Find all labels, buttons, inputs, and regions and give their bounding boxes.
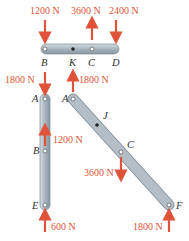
point-label-c-top: C (88, 58, 95, 69)
free-body-diagram (0, 0, 189, 241)
force-label-b-mid: 1200 N (53, 135, 83, 145)
point-label-b-left: B (33, 146, 39, 157)
force-label-e: 600 N (51, 222, 76, 232)
force-label-c-top: 3600 N (71, 6, 101, 16)
point-label-e: E (32, 201, 38, 212)
point-label-j: J (103, 111, 108, 122)
force-label-d-top: 2400 N (109, 6, 139, 16)
point-label-a-left: A (32, 94, 38, 105)
member-ajcf (71, 97, 171, 207)
member-abe (40, 94, 50, 210)
point-label-b-top: B (41, 58, 47, 69)
force-label-c-slant: 3600 N (84, 168, 114, 178)
force-label-a-slant: 1800 N (79, 75, 109, 85)
point-label-d: D (112, 58, 120, 69)
force-label-b-top: 1200 N (30, 6, 60, 16)
point-label-c-slant: C (127, 140, 134, 151)
member-bkcd (41, 44, 119, 54)
point-label-f: F (176, 201, 182, 212)
force-label-a-left: 1800 N (5, 75, 35, 85)
force-label-f: 1800 N (133, 222, 163, 232)
point-label-k: K (69, 58, 76, 69)
point-label-a-slant: A (62, 94, 68, 105)
